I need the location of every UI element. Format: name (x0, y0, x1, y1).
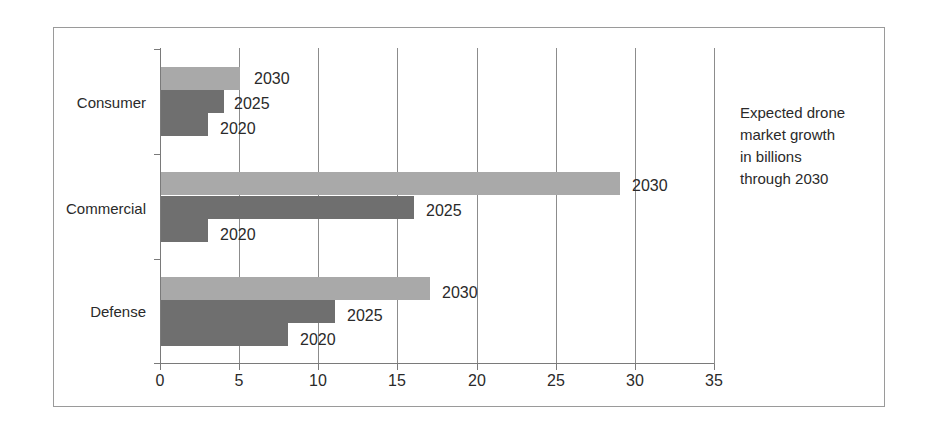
note-line: market growth (740, 124, 870, 146)
y-tick (154, 49, 160, 50)
bar-label-defense-2020: 2020 (300, 328, 336, 351)
x-tick (477, 364, 478, 370)
category-label-defense: Defense (56, 303, 146, 320)
x-tick (160, 364, 161, 370)
bar-consumer-2020 (161, 113, 208, 136)
x-tick-label: 10 (309, 372, 327, 390)
x-tick-label: 20 (468, 372, 486, 390)
bar-defense-2030 (161, 277, 430, 300)
bar-defense-2025 (161, 300, 335, 323)
bar-label-commercial-2020: 2020 (220, 223, 256, 246)
bar-label-commercial-2030: 2030 (632, 174, 668, 197)
x-tick (635, 364, 636, 370)
bar-label-defense-2030: 2030 (442, 281, 478, 304)
y-tick (154, 154, 160, 155)
bar-label-commercial-2025: 2025 (426, 199, 462, 222)
x-tick-label: 15 (388, 372, 406, 390)
chart-note: Expected drone market growth in billions… (740, 102, 870, 190)
gridline-25 (556, 48, 557, 364)
gridline-35 (714, 48, 715, 364)
x-tick-label: 5 (235, 372, 244, 390)
x-tick (714, 364, 715, 370)
category-label-consumer: Consumer (56, 94, 146, 111)
note-line: in billions (740, 146, 870, 168)
x-tick (318, 364, 319, 370)
bar-label-consumer-2030: 2030 (254, 67, 290, 90)
x-tick-label: 35 (705, 372, 723, 390)
y-tick (154, 259, 160, 260)
bar-consumer-2030 (161, 67, 240, 90)
x-tick (397, 364, 398, 370)
x-tick (239, 364, 240, 370)
x-tick-label: 0 (156, 372, 165, 390)
x-tick-label: 25 (547, 372, 565, 390)
gridline-30 (635, 48, 636, 364)
x-tick-label: 30 (626, 372, 644, 390)
bar-commercial-2020 (161, 219, 208, 242)
bar-defense-2020 (161, 323, 288, 346)
x-tick (556, 364, 557, 370)
x-axis (154, 363, 714, 364)
bar-label-defense-2025: 2025 (347, 304, 383, 327)
bar-commercial-2025 (161, 196, 414, 219)
category-label-commercial: Commercial (56, 200, 146, 217)
bar-label-consumer-2020: 2020 (220, 117, 256, 140)
bar-commercial-2030 (161, 172, 620, 195)
bar-consumer-2025 (161, 90, 224, 113)
plot-area: 2030 2025 2020 2030 2025 2020 2030 2025 … (160, 48, 714, 364)
note-line: Expected drone (740, 102, 870, 124)
bar-label-consumer-2025: 2025 (234, 92, 270, 115)
note-line: through 2030 (740, 168, 870, 190)
gridline-20 (477, 48, 478, 364)
